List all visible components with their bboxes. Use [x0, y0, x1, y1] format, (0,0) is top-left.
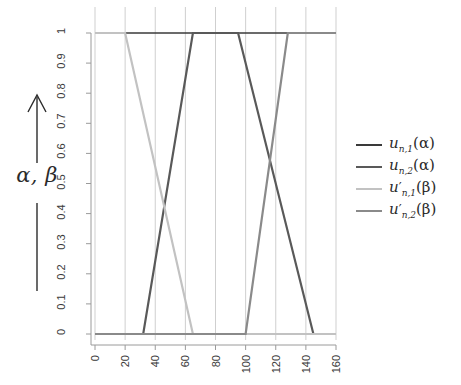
legend-item-u_n1_alpha[interactable]: un,1(α) — [356, 134, 460, 156]
y-tick-label: 0.5 — [55, 165, 67, 199]
y-tick-label: 0.8 — [55, 74, 67, 108]
y-tick-label: 0 — [55, 315, 67, 349]
legend-item-u_n1_beta[interactable]: u′n,1(β) — [356, 178, 460, 200]
y-tick-label: 0.9 — [55, 44, 67, 78]
x-tick-label: 100 — [240, 355, 252, 385]
y-tick-label: 0.3 — [55, 225, 67, 259]
legend-label-u_n1_beta: u′n,1(β) — [389, 180, 436, 198]
y-tick-label: 0.7 — [55, 104, 67, 138]
y-tick-label: 0.2 — [55, 255, 67, 289]
legend-label-u_n1_alpha: un,1(α) — [389, 136, 435, 154]
x-tick-label: 20 — [119, 355, 131, 385]
legend-item-u_n2_beta[interactable]: u′n,2(β) — [356, 200, 460, 222]
x-tick-label: 60 — [179, 355, 191, 385]
legend-item-u_n2_alpha[interactable]: un,2(α) — [356, 156, 460, 178]
plot-area: 00.10.20.30.40.50.60.70.80.91 0204060801… — [0, 0, 350, 385]
x-tick-label: 160 — [330, 355, 342, 385]
x-tick-label: 80 — [210, 355, 222, 385]
legend-swatch-u_n2_alpha — [356, 166, 382, 168]
legend-label-u_n2_alpha: un,2(α) — [389, 158, 435, 176]
x-tick-label: 140 — [300, 355, 312, 385]
y-tick-label: 0.4 — [55, 195, 67, 229]
chart-legend: un,1(α)un,2(α)u′n,1(β)u′n,2(β) — [356, 134, 460, 222]
legend-swatch-u_n1_beta — [356, 188, 382, 190]
x-tick-label: 120 — [270, 355, 282, 385]
chart-root: α, β 00.10.20.30.40.50.60.70.80.91 02040… — [0, 0, 461, 385]
y-tick-label: 0.1 — [55, 285, 67, 319]
y-tick-label: 1 — [55, 14, 67, 48]
y-tick-label: 0.6 — [55, 134, 67, 168]
legend-swatch-u_n2_beta — [356, 210, 382, 212]
legend-label-u_n2_beta: u′n,2(β) — [389, 202, 436, 220]
x-tick-label: 0 — [89, 355, 101, 385]
x-tick-label: 40 — [149, 355, 161, 385]
legend-swatch-u_n1_alpha — [356, 144, 382, 146]
